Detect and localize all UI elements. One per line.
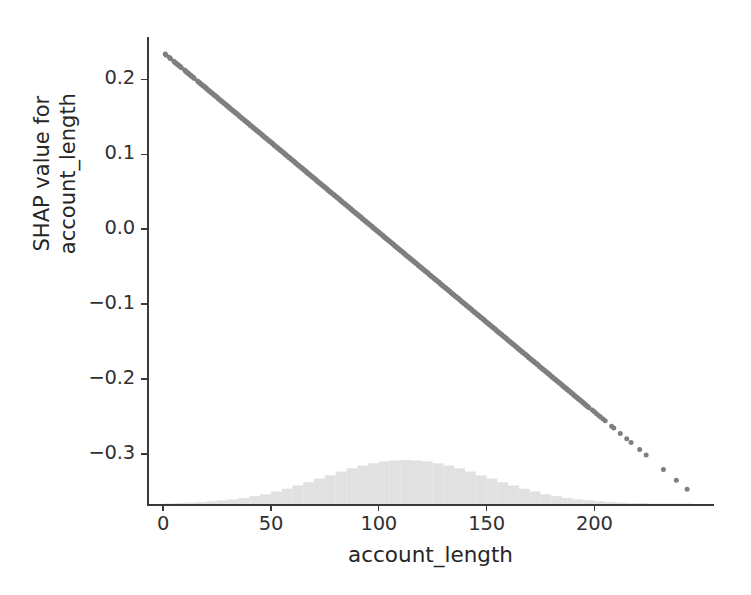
shap-value-points xyxy=(163,51,690,491)
scatter-plot-canvas xyxy=(148,37,713,505)
x-tick-label: 50 xyxy=(259,512,283,535)
histogram-bar xyxy=(443,466,454,504)
histogram-bar xyxy=(368,463,379,504)
histogram-bar xyxy=(325,475,336,504)
x-axis-spine xyxy=(147,504,714,506)
scatter-point xyxy=(637,447,642,452)
x-tick-label: 0 xyxy=(157,512,169,535)
x-tick-mark xyxy=(594,505,596,511)
histogram-bar xyxy=(411,460,422,504)
scatter-point xyxy=(674,478,679,483)
y-tick-mark xyxy=(141,303,147,305)
y-tick-label: 0.0 xyxy=(79,216,135,239)
x-tick-mark xyxy=(486,505,488,511)
histogram-bar xyxy=(282,489,293,504)
x-tick-label: 100 xyxy=(360,512,397,535)
y-tick-label: 0.1 xyxy=(79,141,135,164)
histogram-bar xyxy=(540,494,551,504)
y-axis-label-line-2: account_length xyxy=(56,14,82,334)
histogram-bar xyxy=(271,491,282,504)
scatter-point xyxy=(618,431,623,436)
x-tick-mark xyxy=(378,505,380,511)
y-tick-label: −0.3 xyxy=(79,441,135,464)
histogram-bar xyxy=(336,472,347,504)
histogram-bar xyxy=(497,482,508,504)
histogram-bar xyxy=(454,468,465,504)
scatter-point xyxy=(685,487,690,492)
y-tick-mark xyxy=(141,378,147,380)
histogram-bar xyxy=(433,463,444,504)
scatter-point xyxy=(624,436,629,441)
histogram-bar xyxy=(314,479,325,504)
x-tick-mark xyxy=(162,505,164,511)
histogram-bar xyxy=(303,482,314,504)
histogram-bar xyxy=(292,485,303,504)
histogram-bar xyxy=(260,494,271,504)
histogram-bar xyxy=(508,485,519,504)
x-axis-label: account_length xyxy=(148,542,713,567)
y-tick-mark xyxy=(141,79,147,81)
histogram-bar xyxy=(346,468,357,504)
histogram-bar xyxy=(422,461,433,504)
histogram-bar xyxy=(400,460,411,504)
scatter-point xyxy=(603,418,608,423)
histogram-bar xyxy=(379,461,390,504)
x-tick-mark xyxy=(270,505,272,511)
y-tick-label: −0.2 xyxy=(79,366,135,389)
y-tick-label: −0.1 xyxy=(79,291,135,314)
histogram-bar xyxy=(487,479,498,504)
scatter-point xyxy=(629,440,634,445)
histogram-bar xyxy=(476,475,487,504)
y-tick-mark xyxy=(141,453,147,455)
histogram-bar xyxy=(357,466,368,504)
account-length-histogram xyxy=(163,460,691,504)
scatter-point xyxy=(661,467,666,472)
scatter-point xyxy=(611,426,616,431)
x-tick-label: 150 xyxy=(468,512,505,535)
histogram-bar xyxy=(551,496,562,504)
scatter-point xyxy=(644,453,649,458)
y-tick-mark xyxy=(141,228,147,230)
y-tick-mark xyxy=(141,154,147,156)
x-tick-label: 200 xyxy=(576,512,613,535)
histogram-bar xyxy=(249,496,260,504)
y-axis-label: SHAP value for account_length xyxy=(30,14,81,334)
histogram-bar xyxy=(519,489,530,504)
plot-area xyxy=(148,37,713,505)
histogram-bar xyxy=(465,472,476,504)
y-tick-label: 0.2 xyxy=(79,66,135,89)
histogram-bar xyxy=(390,460,401,504)
y-axis-spine xyxy=(147,37,149,506)
shap-dependence-plot-figure: 0.20.10.0−0.1−0.2−0.3 050100150200 accou… xyxy=(0,0,751,595)
histogram-bar xyxy=(530,491,541,504)
y-axis-label-line-1: SHAP value for xyxy=(30,14,56,334)
